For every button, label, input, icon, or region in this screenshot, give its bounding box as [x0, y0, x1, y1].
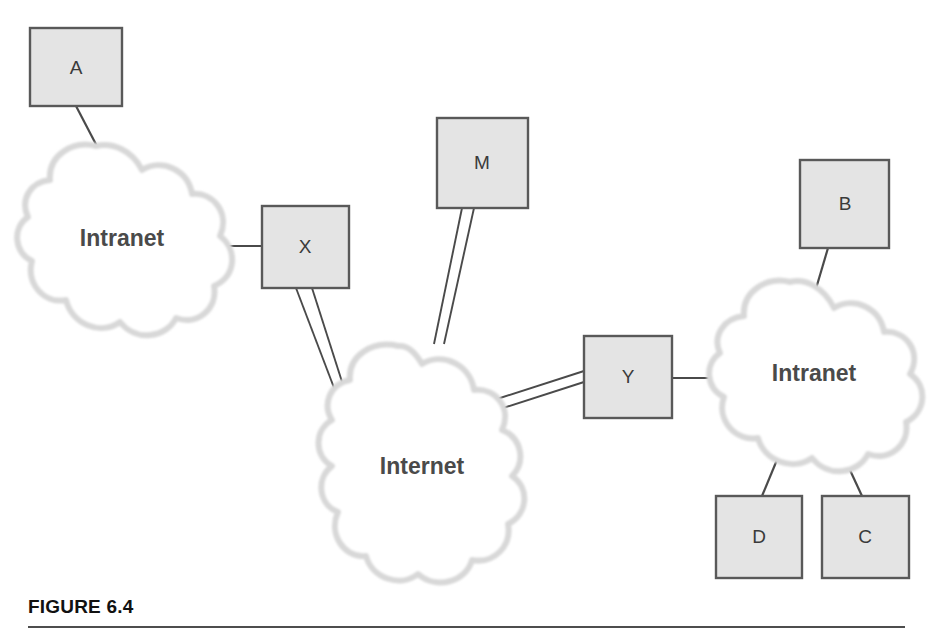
node-a-label: A	[70, 57, 83, 78]
cloud-label-intranet-right: Intranet	[772, 360, 857, 386]
node-d-label: D	[752, 526, 766, 547]
node-b[interactable]: B	[800, 160, 889, 248]
caption-divider	[28, 626, 905, 628]
node-x-label: X	[299, 236, 312, 257]
node-y-label: Y	[622, 366, 635, 387]
figure-caption-block: FIGURE 6.4	[0, 596, 933, 628]
node-y[interactable]: Y	[584, 336, 672, 418]
node-c-label: C	[858, 526, 872, 547]
node-m[interactable]: M	[437, 118, 528, 208]
node-a[interactable]: A	[30, 28, 122, 106]
node-m-label: M	[474, 152, 490, 173]
network-diagram: Intranet Internet Intranet A X	[0, 0, 933, 641]
node-d[interactable]: D	[716, 496, 802, 578]
node-c[interactable]: C	[822, 496, 909, 578]
figure-caption: FIGURE 6.4	[28, 596, 933, 618]
cloud-label-internet: Internet	[380, 453, 465, 479]
node-b-label: B	[839, 193, 852, 214]
figure-container: Intranet Internet Intranet A X	[0, 0, 933, 641]
node-x[interactable]: X	[262, 206, 349, 288]
cloud-label-intranet-left: Intranet	[80, 225, 165, 251]
